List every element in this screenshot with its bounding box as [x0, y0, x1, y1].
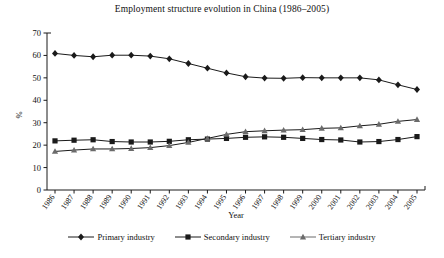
series-3	[52, 116, 420, 153]
data-point	[300, 136, 305, 141]
data-point	[414, 134, 419, 139]
data-point	[262, 75, 268, 82]
x-tick-label: 1995	[212, 193, 229, 211]
series-line	[55, 53, 417, 89]
data-point	[52, 50, 58, 57]
data-point	[376, 139, 381, 144]
x-tick-label: 1991	[135, 193, 152, 211]
chart-plot-area: 010203040506070 198619871988198919901991…	[0, 0, 444, 258]
data-point	[129, 139, 134, 144]
data-point	[414, 116, 420, 122]
y-tick-label: 0	[37, 185, 41, 195]
data-point	[185, 60, 191, 67]
legend-marker-icon	[175, 232, 201, 242]
legend-label: Tertiary industry	[319, 232, 376, 242]
x-tick-label: 1987	[59, 193, 76, 211]
series-layer	[52, 50, 420, 154]
x-tick-label: 1994	[193, 193, 210, 211]
data-point	[52, 138, 57, 143]
data-point	[71, 52, 77, 59]
x-tick-label: 1996	[231, 193, 248, 211]
x-tick-label: 1993	[173, 193, 190, 211]
chart-container: Employment structure evolution in China …	[0, 0, 444, 258]
x-tick-label: 1999	[288, 193, 305, 211]
data-point	[91, 137, 96, 142]
data-point	[395, 81, 401, 88]
x-tick-label: 2003	[364, 193, 381, 211]
data-point	[243, 73, 249, 80]
legend-item-3[interactable]: Tertiary industry	[290, 232, 376, 242]
data-point	[166, 55, 172, 62]
x-tick-label: 1998	[269, 193, 286, 211]
data-point	[147, 53, 153, 60]
y-tick-label: 20	[33, 140, 42, 150]
x-tick-label: 2000	[307, 193, 324, 211]
y-tick-label: 10	[33, 163, 42, 173]
data-point	[243, 135, 248, 140]
data-point	[110, 139, 115, 144]
legend-marker-icon	[290, 232, 316, 242]
x-tick-label: 2005	[402, 193, 419, 211]
x-tick-label: 2002	[345, 193, 362, 211]
data-point	[300, 74, 306, 81]
y-tick-label: 30	[33, 118, 42, 128]
data-point	[357, 139, 362, 144]
data-point	[90, 53, 96, 60]
x-tick-label: 1990	[116, 193, 133, 211]
x-tick-label: 1988	[78, 193, 95, 211]
data-point	[148, 139, 153, 144]
y-tick-label: 60	[33, 50, 42, 60]
x-tick-label: 1986	[40, 193, 57, 211]
x-axis: 1986198719881989199019911992199319941995…	[40, 186, 425, 211]
x-tick-label: 1989	[97, 193, 114, 211]
data-point	[128, 52, 134, 59]
data-point	[414, 86, 420, 93]
data-point	[71, 138, 76, 143]
x-tick-label: 2004	[383, 193, 400, 211]
y-tick-label: 40	[33, 95, 42, 105]
series-1	[52, 50, 420, 93]
x-axis-title: Year	[228, 210, 244, 220]
data-point	[338, 74, 344, 81]
data-point	[319, 74, 325, 81]
y-axis-title: %	[14, 111, 24, 118]
data-point	[223, 70, 229, 77]
series-line	[55, 137, 417, 142]
data-point	[204, 65, 210, 72]
data-point	[281, 75, 287, 82]
data-point	[319, 137, 324, 142]
legend-label: Secondary industry	[204, 232, 270, 242]
y-axis: 010203040506070	[33, 28, 52, 195]
y-tick-label: 50	[33, 73, 42, 83]
x-tick-label: 1992	[154, 193, 171, 211]
legend-item-1[interactable]: Primary industry	[68, 232, 154, 242]
chart-legend: Primary industrySecondary industryTertia…	[0, 232, 444, 242]
data-point	[395, 137, 400, 142]
data-point	[262, 134, 267, 139]
legend-item-2[interactable]: Secondary industry	[175, 232, 270, 242]
data-point	[281, 135, 286, 140]
data-point	[338, 137, 343, 142]
series-2	[52, 134, 419, 145]
data-point	[357, 74, 363, 81]
x-tick-label: 2001	[326, 193, 343, 211]
y-tick-label: 70	[33, 28, 42, 38]
data-point	[109, 52, 115, 59]
x-tick-label: 1997	[250, 193, 267, 211]
series-line	[55, 120, 417, 152]
data-point	[376, 76, 382, 83]
legend-marker-icon	[68, 232, 94, 242]
legend-label: Primary industry	[97, 232, 154, 242]
